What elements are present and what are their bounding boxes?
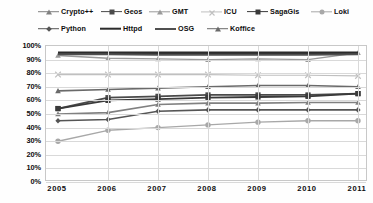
legend-label-koffice: Koffice [230,24,255,33]
x-axis-tick-label: 2006 [97,184,116,193]
legend-marker-triangle-icon [46,9,52,14]
chart-legend: Crypto++GeosGMTICUSagaGisLokiPythonHttpd… [38,3,368,37]
legend-item-geos[interactable]: Geos [101,3,149,20]
vertical-gridline [158,46,159,180]
legend-swatch-koffice-icon [207,24,228,33]
legend-label-gmt: GMT [172,7,188,16]
legend-marker-triangle-icon [157,9,163,14]
legend-item-gmt[interactable]: GMT [149,3,201,20]
y-axis-tick-label: 10% [0,163,41,172]
legend-item-httpd[interactable]: Httpd [100,20,155,37]
legend-swatch-osg-icon [155,24,176,33]
legend-label-cryptopp: Crypto++ [61,7,93,16]
legend-swatch-gmt-icon [149,7,170,16]
legend-swatch-loki-icon [311,7,332,16]
legend-marker-x-icon [209,9,215,15]
legend-marker-square-icon [109,9,114,14]
legend-swatch-python-icon [38,24,59,33]
y-axis-tick-label: 90% [0,54,41,63]
x-axis-tick-label: 2007 [147,184,166,193]
data-point-marker [55,118,60,124]
vertical-gridline [258,46,259,180]
plot-area [45,45,367,181]
legend-item-koffice[interactable]: Koffice [207,20,269,37]
vertical-gridline [208,46,209,180]
legend-marker-square-icon [255,9,260,14]
vertical-gridline [108,46,109,180]
legend-swatch-sagagis-icon [247,7,268,16]
horizontal-gridline [46,100,366,101]
x-axis-tick-label: 2008 [197,184,216,193]
x-axis-tick-label: 2010 [297,184,316,193]
legend-marker-circle-icon [319,9,324,14]
y-axis-tick-label: 60% [0,95,41,104]
legend-item-python[interactable]: Python [38,20,100,37]
horizontal-gridline [46,60,366,61]
legend-label-sagagis: SagaGis [270,7,299,16]
legend-marker-triangle-icon [215,26,221,31]
y-axis-tick-label: 80% [0,68,41,77]
x-axis-tick-label: 2005 [47,184,66,193]
legend-label-geos: Geos [124,7,142,16]
horizontal-gridline [46,128,366,129]
horizontal-gridline [46,73,366,74]
legend-swatch-icu-icon [201,7,222,16]
legend-label-loki: Loki [334,7,349,16]
x-axis: 2005200620072008200920102011 [45,183,367,199]
legend-item-sagagis[interactable]: SagaGis [247,3,311,20]
y-axis-tick-label: 100% [0,41,41,50]
horizontal-gridline [46,168,366,169]
legend-swatch-httpd-icon [100,24,121,33]
legend-swatch-geos-icon [101,7,122,16]
x-axis-tick-label: 2009 [247,184,266,193]
legend-swatch-cryptopp-icon [38,7,59,16]
y-axis-tick-label: 70% [0,81,41,90]
y-axis-tick-label: 40% [0,122,41,131]
legend-label-httpd: Httpd [123,24,142,33]
data-point-marker [55,106,60,111]
horizontal-gridline [46,114,366,115]
legend-label-icu: ICU [224,7,237,16]
y-axis-tick-label: 20% [0,149,41,158]
y-axis-tick-label: 0% [0,177,41,186]
legend-label-osg: OSG [178,24,194,33]
y-axis-tick-label: 30% [0,136,41,145]
legend-item-cryptopp[interactable]: Crypto++ [38,3,101,20]
vertical-gridline [358,46,359,180]
legend-label-python: Python [61,24,86,33]
legend-item-loki[interactable]: Loki [311,3,355,20]
horizontal-gridline [46,155,366,156]
legend-item-osg[interactable]: OSG [155,20,207,37]
x-axis-tick-label: 2011 [348,184,367,193]
legend-marker-diamond-icon [46,26,52,32]
vertical-gridline [308,46,309,180]
line-chart: Crypto++GeosGMTICUSagaGisLokiPythonHttpd… [0,0,373,203]
horizontal-gridline [46,87,366,88]
horizontal-gridline [46,141,366,142]
y-axis: 100%90%80%70%60%50%40%30%20%10%0% [0,45,43,181]
y-axis-tick-label: 50% [0,109,41,118]
legend-item-icu[interactable]: ICU [201,3,247,20]
